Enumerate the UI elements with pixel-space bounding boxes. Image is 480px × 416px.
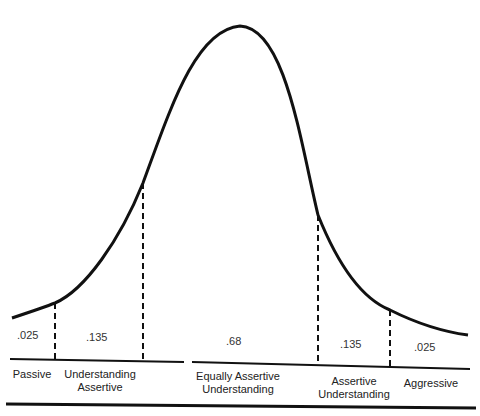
region-label-aggressive: Aggressive bbox=[398, 377, 464, 390]
region-label-passive: Passive bbox=[8, 368, 56, 381]
baseline-right bbox=[192, 362, 470, 369]
region-label-understanding-assertive: Understanding Assertive bbox=[58, 368, 142, 394]
baseline-left bbox=[10, 359, 184, 362]
bottom-rule bbox=[6, 404, 476, 408]
region-value-equally-assertive: .68 bbox=[226, 335, 241, 347]
region-value-passive: .025 bbox=[17, 329, 38, 341]
bell-curve-graphic bbox=[0, 0, 480, 416]
region-value-aggressive: .025 bbox=[414, 341, 435, 353]
distribution-diagram: .025 .135 .68 .135 .025 Passive Understa… bbox=[0, 0, 480, 416]
region-value-assertive-understanding: .135 bbox=[340, 338, 361, 350]
region-label-assertive-understanding: Assertive Understanding bbox=[314, 375, 394, 401]
region-value-understanding-assertive: .135 bbox=[86, 331, 107, 343]
bell-curve bbox=[12, 26, 468, 335]
region-label-equally-assertive: Equally Assertive Understanding bbox=[186, 370, 290, 396]
